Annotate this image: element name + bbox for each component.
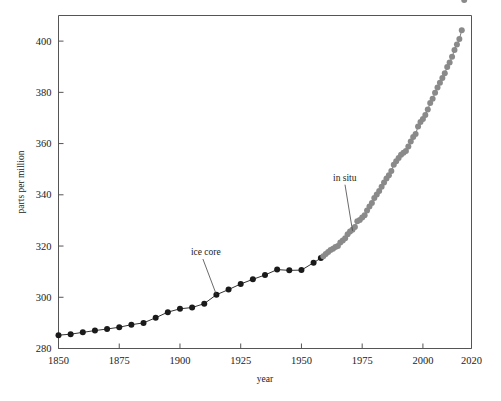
data-point-ice-core xyxy=(68,331,74,337)
data-point-in-situ xyxy=(405,144,411,150)
data-point-in-situ xyxy=(459,27,465,33)
axes-frame xyxy=(59,16,472,349)
y-tick-label: 340 xyxy=(36,189,52,200)
x-tick-label: 1925 xyxy=(230,355,251,366)
data-point-in-situ xyxy=(352,224,358,230)
x-tick-label: 1900 xyxy=(169,355,190,366)
data-point-ice-core xyxy=(56,332,62,338)
annotation-leader-in-situ xyxy=(345,185,353,231)
data-point-ice-core xyxy=(274,267,280,273)
data-point-ice-core xyxy=(311,260,317,266)
series-line-ice-core xyxy=(59,258,321,335)
data-point-in-situ xyxy=(447,60,453,66)
data-point-ice-core xyxy=(116,324,122,330)
data-point-ice-core xyxy=(298,267,304,273)
annotation-leader-ice-core xyxy=(203,259,217,295)
data-point-ice-core xyxy=(104,326,110,332)
data-point-ice-core xyxy=(189,305,195,311)
data-point-ice-core xyxy=(92,328,98,334)
data-point-in-situ xyxy=(388,168,394,174)
chart-svg: 280300320340360380400 185018751900192519… xyxy=(0,0,501,401)
data-point-ice-core xyxy=(201,301,207,307)
data-point-ice-core xyxy=(213,292,219,298)
plot-frame xyxy=(59,16,472,349)
data-point-in-situ xyxy=(456,36,462,42)
data-point-ice-core xyxy=(250,276,256,282)
x-axis-title: year xyxy=(257,374,274,384)
chart-page: 280300320340360380400 185018751900192519… xyxy=(0,0,501,401)
x-axis-ticks: 18501875190019251950197520002020 xyxy=(48,344,482,366)
x-tick-label: 2000 xyxy=(412,355,433,366)
data-point-ice-core xyxy=(153,315,159,321)
x-tick-label: 2020 xyxy=(461,355,482,366)
data-point-in-situ xyxy=(451,47,457,53)
y-tick-label: 360 xyxy=(36,138,52,149)
y-tick-label: 400 xyxy=(36,36,52,47)
data-point-in-situ xyxy=(461,0,467,3)
data-point-in-situ xyxy=(430,96,436,102)
y-axis-ticks: 280300320340360380400 xyxy=(36,36,64,354)
data-point-ice-core xyxy=(226,287,232,293)
annotation-layer: ice corein situ xyxy=(191,173,357,295)
data-point-ice-core xyxy=(165,309,171,315)
data-point-ice-core xyxy=(80,329,86,335)
data-point-in-situ xyxy=(449,54,455,60)
data-point-in-situ xyxy=(422,112,428,118)
data-point-ice-core xyxy=(238,281,244,287)
y-tick-label: 300 xyxy=(36,292,52,303)
data-point-ice-core xyxy=(177,306,183,312)
data-series-layer xyxy=(56,0,468,338)
data-point-in-situ xyxy=(442,70,448,76)
data-point-in-situ xyxy=(432,90,438,96)
data-point-ice-core xyxy=(262,272,268,278)
x-tick-label: 1875 xyxy=(109,355,130,366)
data-point-in-situ xyxy=(425,107,431,113)
data-point-in-situ xyxy=(413,131,419,137)
x-tick-label: 1950 xyxy=(291,355,312,366)
annotation-label-in-situ: in situ xyxy=(333,173,357,183)
data-point-in-situ xyxy=(454,42,460,48)
y-tick-label: 320 xyxy=(36,241,52,252)
data-point-ice-core xyxy=(128,322,134,328)
x-tick-label: 1975 xyxy=(352,355,373,366)
x-tick-label: 1850 xyxy=(48,355,69,366)
series-line-in-situ xyxy=(323,30,461,256)
co2-concentration-chart: 280300320340360380400 185018751900192519… xyxy=(0,0,501,401)
annotation-label-ice-core: ice core xyxy=(191,247,221,257)
y-tick-label: 380 xyxy=(36,87,52,98)
data-point-ice-core xyxy=(141,320,147,326)
y-axis-title: parts per million xyxy=(16,150,26,213)
y-tick-label: 280 xyxy=(36,343,52,354)
data-point-ice-core xyxy=(286,267,292,273)
